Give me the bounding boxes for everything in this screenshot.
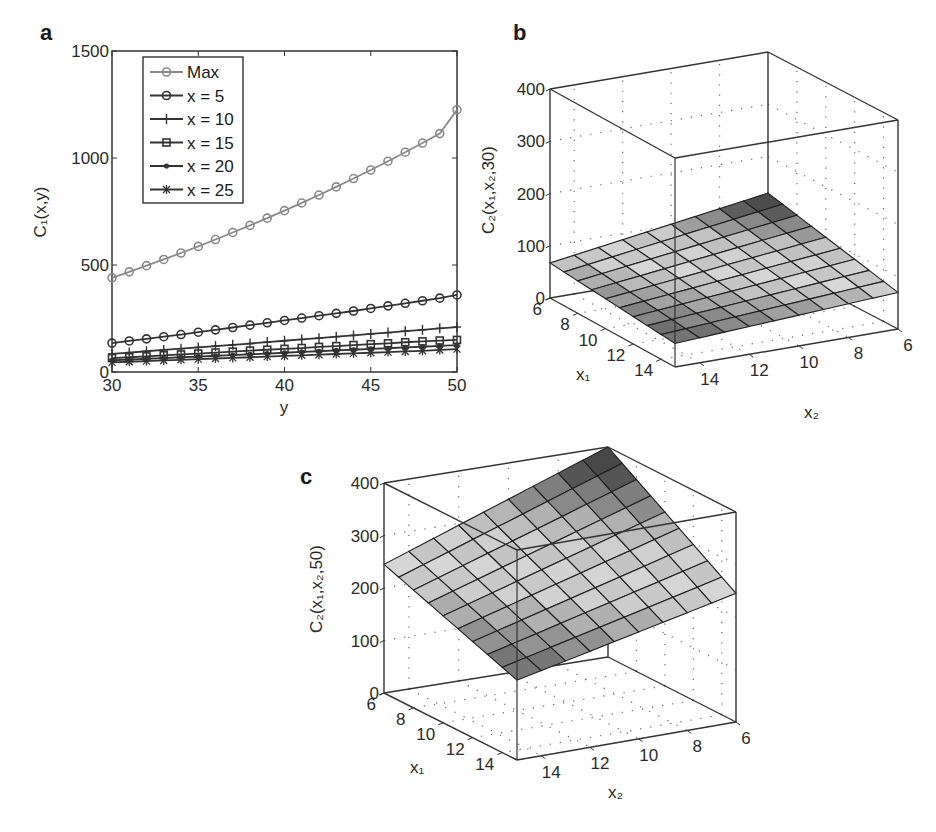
- y-axis-label-a: C₁(x,y): [31, 186, 50, 237]
- z-tick-label: 100: [517, 237, 545, 256]
- x1-tick-label: 6: [367, 695, 376, 714]
- x2-tick-label: 12: [591, 754, 610, 773]
- x1-axis-label-c: x₁: [410, 758, 425, 777]
- z-tick-label: 100: [351, 632, 379, 651]
- z-tick-label: 300: [517, 132, 545, 151]
- x1-tick-label: 12: [446, 740, 465, 759]
- x1-tick-label: 8: [560, 315, 569, 334]
- x1-tick-label: 14: [475, 755, 494, 774]
- x1-tick-label: 10: [416, 725, 435, 744]
- y-tick-label: 500: [81, 256, 109, 275]
- x2-tick-label: 8: [693, 737, 702, 756]
- x1-tick-label: 14: [634, 361, 653, 380]
- legend-item: Max: [187, 63, 220, 82]
- surface-mesh: [550, 193, 898, 343]
- x1-axis-label-b: x₁: [576, 365, 591, 384]
- panel-label-b: b: [513, 20, 526, 45]
- y-tick-label: 1500: [71, 42, 109, 61]
- legend: Maxx = 5x = 10x = 15x = 20x = 25: [143, 57, 243, 203]
- z-axis-label-b: C₂(x₁,x₂,30): [479, 146, 498, 234]
- x2-axis-label-b: x₂: [804, 403, 819, 422]
- x1-tick-label: 10: [579, 331, 598, 350]
- panel-label-c: c: [300, 464, 312, 489]
- z-axis-label-c: C₂(x₁,x₂,50): [307, 545, 326, 633]
- x1-tick-label: 6: [533, 300, 542, 319]
- x2-tick-label: 10: [799, 353, 818, 372]
- z-tick-label: 200: [517, 185, 545, 204]
- x-tick-label: 50: [448, 376, 467, 395]
- surface-chart-panel-c: 01002003004006810121468101214: [351, 447, 751, 782]
- z-tick-label: 200: [351, 579, 379, 598]
- z-tick-label: 300: [351, 527, 379, 546]
- x2-tick-label: 12: [750, 361, 769, 380]
- x2-tick-label: 6: [903, 336, 912, 355]
- x2-axis-label-c: x₂: [608, 783, 623, 802]
- legend-item: x = 5: [187, 87, 224, 106]
- surface-mesh: [384, 447, 736, 680]
- surface-chart-panel-b: 01002003004006810121468101214: [517, 52, 913, 389]
- x2-tick-label: 14: [700, 370, 719, 389]
- z-tick-label: 400: [517, 80, 545, 99]
- panel-label-a: a: [40, 20, 53, 45]
- x-tick-label: 40: [275, 376, 294, 395]
- legend-item: x = 20: [187, 157, 234, 176]
- y-tick-label: 0: [100, 363, 109, 382]
- legend-item: x = 10: [187, 110, 234, 129]
- x-tick-label: 35: [189, 376, 208, 395]
- x2-tick-label: 6: [741, 729, 750, 748]
- x1-tick-label: 12: [606, 346, 625, 365]
- x-axis-label-a: y: [280, 398, 289, 417]
- z-tick-label: 400: [351, 474, 379, 493]
- line-chart-panel-a: 3035404550050010001500Maxx = 5x = 10x = …: [71, 42, 466, 395]
- x2-tick-label: 8: [854, 344, 863, 363]
- x-tick-label: 45: [361, 376, 380, 395]
- x1-tick-label: 8: [396, 710, 405, 729]
- legend-item: x = 25: [187, 181, 234, 200]
- y-tick-label: 1000: [71, 149, 109, 168]
- x2-tick-label: 10: [639, 746, 658, 765]
- legend-item: x = 15: [187, 134, 234, 153]
- figure: a b c 3035404550050010001500Maxx = 5x = …: [0, 0, 936, 832]
- x2-tick-label: 14: [542, 763, 561, 782]
